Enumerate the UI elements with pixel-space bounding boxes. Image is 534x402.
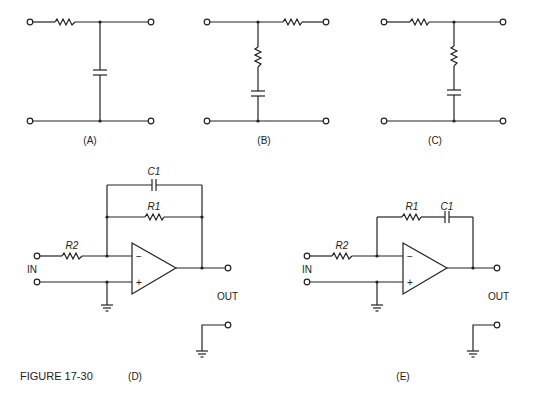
resistor-icon (283, 19, 302, 25)
panel-d-circuit: C1 R1 R2 IN − + (27, 166, 238, 382)
svg-text:−: − (407, 251, 413, 262)
resistor-icon (410, 19, 429, 25)
resistor-icon (145, 214, 164, 220)
in-label: IN (27, 264, 37, 275)
svg-text:−: − (136, 251, 142, 262)
panel-c-label: (C) (428, 135, 442, 146)
panel-b-label: (B) (257, 135, 270, 146)
terminal-out-bottom (148, 118, 154, 124)
resistor-icon (402, 214, 421, 220)
output-terminal (494, 265, 500, 271)
resistor-icon (451, 46, 457, 66)
panel-e-circuit: R1 C1 R2 IN − + OUT (302, 201, 509, 382)
in-label: IN (302, 264, 312, 275)
panel-e-label: (E) (396, 371, 409, 382)
out-label: OUT (217, 291, 238, 302)
svg-text:+: + (136, 277, 142, 288)
ground-icon (196, 351, 208, 357)
panel-a-label: (A) (83, 135, 96, 146)
resistor-icon (332, 253, 352, 259)
panel-a-circuit: (A) (27, 19, 154, 146)
figure-canvas: (A) (B) (C) (0, 0, 534, 402)
out-label: OUT (488, 291, 509, 302)
resistor-icon (255, 47, 261, 67)
r2-label: R2 (336, 240, 349, 251)
c1-label: C1 (441, 201, 454, 212)
output-terminal (225, 265, 231, 271)
r1-label: R1 (406, 201, 419, 212)
panel-b-circuit: (B) (204, 19, 329, 146)
ground-icon (101, 305, 113, 311)
panel-c-circuit: (C) (381, 19, 506, 146)
r1-label: R1 (148, 201, 161, 212)
figure-caption: FIGURE 17-30 (20, 370, 93, 382)
resistor-icon (62, 253, 82, 259)
svg-text:+: + (407, 277, 413, 288)
ground-icon (371, 305, 383, 311)
terminal-in-bottom (27, 118, 33, 124)
terminal-in-top (27, 19, 33, 25)
ground-icon (467, 351, 479, 357)
terminal-out-top (148, 19, 154, 25)
panel-d-label: (D) (128, 371, 142, 382)
r2-label: R2 (66, 240, 79, 251)
c1-label: C1 (148, 166, 161, 177)
resistor-icon (55, 19, 75, 25)
